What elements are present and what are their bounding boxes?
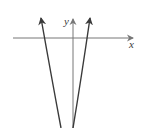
parabola-diagram: y x — [0, 0, 143, 128]
y-axis-label: y — [63, 15, 69, 27]
x-axis-label: x — [128, 38, 134, 50]
parabola-left-branch — [41, 18, 61, 128]
parabola-right-branch — [73, 18, 90, 128]
